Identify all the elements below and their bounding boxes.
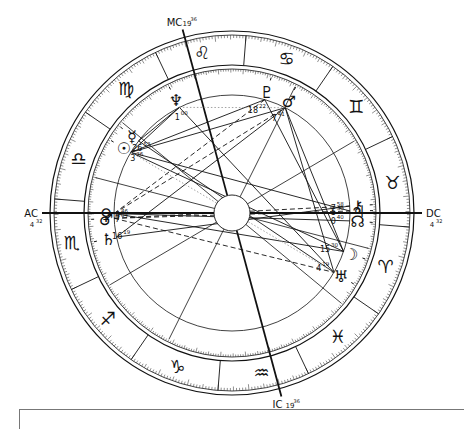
inner-tick — [324, 104, 326, 106]
outer-tick — [276, 382, 277, 385]
sign-pisces-icon: ♓︎ — [330, 326, 346, 347]
inner-tick — [314, 96, 315, 98]
pluto-icon: ♇︎ — [260, 83, 274, 102]
outer-tick — [70, 285, 73, 286]
inner-tick — [336, 116, 338, 118]
inner-tick — [103, 149, 105, 150]
inner-tick — [101, 153, 105, 155]
inner-tick — [184, 77, 185, 79]
inner-tick — [131, 110, 133, 112]
outer-tick — [179, 43, 180, 46]
outer-tick — [89, 107, 91, 109]
planet-uranus[interactable]: ♅︎419 — [316, 261, 354, 286]
sign-leo-icon: ♌︎ — [194, 42, 210, 63]
outer-tick — [170, 46, 172, 50]
inner-tick — [191, 349, 192, 351]
sign-boundary — [244, 36, 246, 66]
inner-tick — [98, 160, 100, 161]
inner-tick — [288, 343, 289, 345]
outer-tick — [299, 49, 300, 52]
inner-tick — [360, 274, 362, 275]
outer-tick — [89, 317, 91, 319]
outer-tick — [378, 310, 381, 312]
inner-tick — [358, 278, 360, 279]
outer-tick — [378, 115, 381, 117]
inner-tick — [370, 236, 374, 237]
outer-tick — [161, 50, 162, 53]
outer-tick — [144, 364, 146, 368]
inner-tick — [300, 86, 301, 88]
outer-tick — [74, 294, 77, 295]
outer-tick — [110, 84, 112, 86]
outer-tick — [57, 180, 60, 181]
outer-tick — [318, 365, 319, 368]
outer-tick — [302, 50, 303, 53]
inner-tick — [320, 324, 321, 326]
outer-tick — [273, 383, 274, 386]
inner-tick — [97, 162, 99, 163]
inner-tick — [159, 335, 160, 337]
outer-tick — [318, 58, 320, 62]
outer-tick — [398, 157, 401, 158]
outer-tick — [320, 363, 322, 367]
inner-tick — [310, 331, 311, 333]
outer-tick — [58, 251, 61, 252]
uranus-icon: ♅︎ — [334, 267, 348, 286]
outer-tick — [126, 70, 128, 72]
inner-tick — [295, 340, 296, 342]
inner-tick — [291, 342, 292, 344]
inner-tick — [107, 283, 109, 284]
inner-tick — [366, 175, 371, 176]
inner-tick — [186, 76, 187, 78]
inner-tick — [140, 102, 142, 104]
planet-lilith[interactable]: ♂︎741 — [272, 87, 296, 122]
inner-tick — [311, 94, 314, 98]
outer-tick — [107, 336, 111, 340]
moon-marker — [362, 258, 365, 259]
outer-tick — [71, 136, 74, 137]
chart-wheel: ♈︎♉︎♊︎♋︎♌︎♍︎♎︎♏︎♐︎♑︎♒︎♓︎ ☉︎336☽︎1530☿︎26… — [0, 0, 464, 410]
neptune-icon: ♆︎ — [169, 91, 183, 110]
planet-lunar-node[interactable]: ☊︎040 — [331, 212, 373, 231]
outer-tick — [361, 331, 363, 333]
inner-tick — [137, 105, 139, 107]
outer-tick — [59, 254, 62, 255]
outer-tick — [350, 82, 352, 84]
inner-tick — [99, 158, 101, 159]
aspect-venus-lilith — [114, 108, 285, 214]
outer-tick — [112, 82, 114, 84]
outer-tick — [396, 274, 399, 275]
inner-tick — [148, 328, 149, 330]
moon-minute: 30 — [331, 242, 338, 248]
outer-tick — [188, 41, 189, 44]
inner-tick — [292, 339, 294, 343]
outer-tick — [353, 86, 357, 90]
outer-tick — [400, 263, 403, 264]
outer-tick — [342, 76, 345, 79]
outer-tick — [264, 38, 265, 41]
inner-tick — [94, 253, 96, 254]
inner-tick — [91, 244, 93, 245]
inner-tick — [93, 250, 98, 251]
inner-tick — [196, 74, 197, 76]
outer-tick — [176, 44, 177, 47]
sign-boundary — [155, 52, 168, 79]
outer-tick — [296, 376, 297, 379]
sign-aries-icon: ♈︎ — [378, 256, 394, 277]
outer-tick — [371, 105, 373, 107]
outer-tick — [152, 370, 153, 373]
outer-tick — [395, 151, 399, 153]
sign-boundary — [380, 225, 410, 227]
outer-tick — [134, 65, 136, 68]
inner-tick — [127, 310, 129, 312]
outer-tick — [147, 57, 148, 60]
inner-tick — [95, 170, 97, 171]
outer-tick — [403, 181, 407, 182]
planet-saturn[interactable]: ♄︎1619 — [94, 229, 131, 249]
inner-tick — [119, 123, 121, 124]
inner-tick — [344, 299, 346, 300]
outer-tick — [338, 352, 340, 354]
inner-tick — [368, 251, 370, 252]
outer-tick — [91, 105, 93, 107]
outer-tick — [79, 123, 82, 125]
